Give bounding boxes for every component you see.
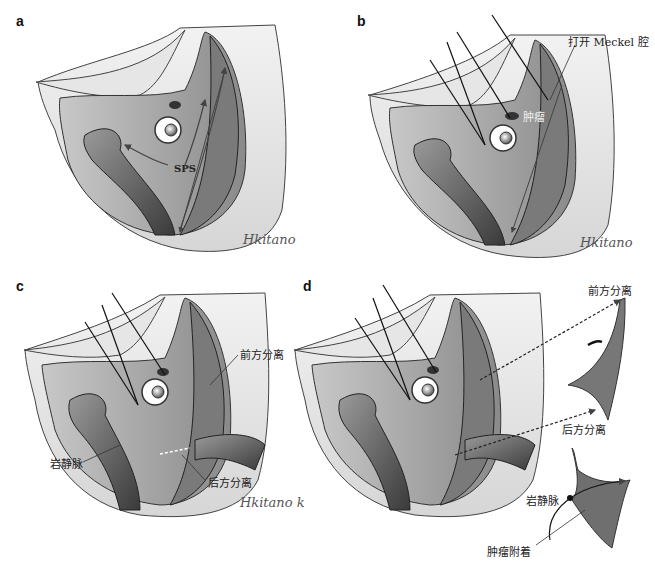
posterior-dissection-label: 后方分离 xyxy=(208,474,252,490)
signature: Hkitano xyxy=(580,235,633,250)
tumor-label: 肿瘤 xyxy=(523,108,545,124)
posterior-dissection-label: 后方分离 xyxy=(562,421,606,437)
petrosal-vein-label: 岩静脉 xyxy=(50,455,83,471)
panel-label-a: a xyxy=(16,13,24,29)
panel-d-drawing xyxy=(294,285,630,548)
sps-label: SPS xyxy=(174,163,196,174)
panel-label-d: d xyxy=(303,278,312,294)
panel-label-b: b xyxy=(357,13,366,29)
panel-a-drawing xyxy=(36,25,286,251)
anterior-dissection-label: 前方分离 xyxy=(588,282,632,298)
tumor-attachment-specimen xyxy=(572,448,630,548)
tumor-attachment-label: 肿瘤附着 xyxy=(487,543,531,559)
open-meckel-label: 打开 Meckel 腔 xyxy=(568,33,649,49)
anterior-specimen xyxy=(568,298,625,420)
tumor-nodule xyxy=(169,101,181,109)
signature: Hkitano k xyxy=(240,495,305,510)
signature: Hkitano xyxy=(243,232,296,247)
illustration-canvas xyxy=(0,0,655,567)
panel-b-drawing xyxy=(368,15,614,257)
panel-label-c: c xyxy=(16,278,24,294)
anterior-dissection-label: 前方分离 xyxy=(240,346,284,362)
attachment-pointer xyxy=(536,510,585,545)
petrosal-vein-label: 岩静脉 xyxy=(526,492,559,508)
